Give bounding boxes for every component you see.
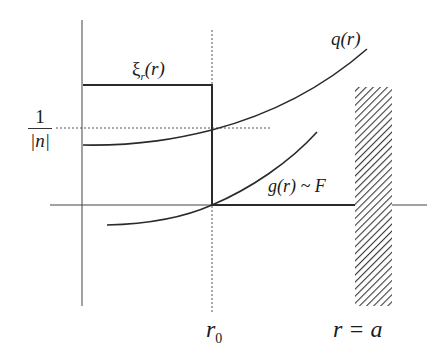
- inverse-n-numerator: 1: [28, 107, 52, 127]
- xi-label: ξr(r): [132, 58, 165, 82]
- hatched-wall: [355, 87, 392, 306]
- diagram-canvas: [0, 0, 443, 359]
- q-curve: [83, 49, 367, 145]
- r0-label: r0: [206, 316, 222, 347]
- inverse-n-denominator: |n|: [28, 130, 52, 152]
- fraction-bar: [28, 128, 52, 129]
- inverse-n-label: 1 |n|: [28, 107, 52, 152]
- q-label: q(r): [331, 28, 361, 50]
- g-label: g(r) ~ F: [268, 176, 326, 197]
- ra-label: r = a: [333, 316, 383, 343]
- r0-subscript: 0: [215, 331, 222, 346]
- xi-argument: (r): [145, 58, 165, 79]
- r0-symbol: r: [206, 316, 215, 342]
